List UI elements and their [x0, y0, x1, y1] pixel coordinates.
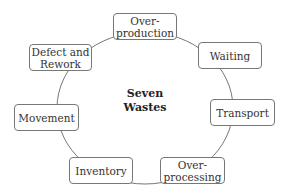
node-overproduction: Over-production — [113, 13, 177, 40]
center-label-line2: Wastes — [115, 101, 175, 115]
node-label: Defect and — [32, 46, 90, 58]
node-defect-rework: Defect andRework — [29, 44, 92, 71]
node-label: Inventory — [75, 165, 126, 177]
node-overprocessing: Over-processing — [160, 157, 225, 184]
node-label: Over- — [116, 15, 174, 27]
node-label: processing — [164, 171, 222, 183]
node-label: Rework — [32, 58, 90, 70]
node-label: Movement — [18, 112, 74, 124]
center-label-line1: Seven — [115, 87, 175, 101]
node-label: production — [116, 27, 174, 39]
node-label: Waiting — [210, 50, 251, 62]
node-label: Over- — [164, 159, 222, 171]
node-waiting: Waiting — [198, 42, 262, 69]
center-label: Seven Wastes — [115, 87, 175, 115]
node-movement: Movement — [14, 104, 79, 131]
node-inventory: Inventory — [69, 157, 133, 184]
node-label: Transport — [216, 107, 269, 119]
node-transport: Transport — [210, 99, 275, 126]
